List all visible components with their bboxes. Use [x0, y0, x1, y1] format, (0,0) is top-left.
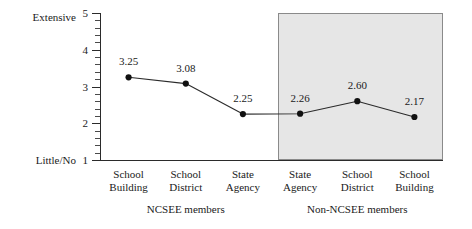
y-axis-minor-tick: [95, 20, 100, 21]
y-axis-minor-tick: [95, 35, 100, 36]
y-axis-tick-label: 2: [74, 118, 88, 129]
data-point-marker: [183, 81, 189, 87]
y-axis-minor-tick: [95, 79, 100, 80]
y-axis-minor-tick: [95, 42, 100, 43]
y-axis-major-tick: [92, 50, 100, 51]
data-point-value-label: 2.17: [405, 96, 424, 107]
y-axis-major-tick: [92, 13, 100, 14]
data-point-value-label: 2.60: [348, 80, 367, 91]
y-axis-tick-label: 4: [74, 45, 88, 56]
y-axis-major-tick: [92, 123, 100, 124]
y-axis-anchor-low-label: Little/No: [18, 155, 76, 166]
y-axis-tick-label: 5: [74, 8, 88, 19]
y-axis-tick-label: 1: [74, 155, 88, 166]
data-point-value-label: 3.25: [119, 56, 138, 67]
x-axis-group-label: Non-NCSEE members: [267, 203, 447, 215]
x-axis-group-label: NCSEE members: [96, 203, 276, 215]
data-point-value-label: 2.25: [233, 93, 252, 104]
y-axis-line: [100, 13, 101, 161]
data-point-value-label: 3.08: [176, 63, 195, 74]
y-axis-major-tick: [92, 87, 100, 88]
data-point-value-label: 2.26: [290, 93, 309, 104]
data-point-marker: [126, 74, 132, 80]
y-axis-minor-tick: [95, 28, 100, 29]
y-axis-minor-tick: [95, 64, 100, 65]
y-axis-minor-tick: [95, 153, 100, 154]
y-axis-minor-tick: [95, 145, 100, 146]
y-axis-minor-tick: [95, 138, 100, 139]
data-point-marker: [240, 111, 246, 117]
y-axis-minor-tick: [95, 101, 100, 102]
y-axis-minor-tick: [95, 57, 100, 58]
y-axis-tick-label: 3: [74, 82, 88, 93]
y-axis-minor-tick: [95, 116, 100, 117]
y-axis-minor-tick: [95, 131, 100, 132]
chart-figure: Extensive Little/No 12345 3.253.082.252.…: [0, 0, 472, 229]
x-axis-line: [100, 160, 443, 161]
y-axis-anchor-high-label: Extensive: [18, 12, 76, 23]
y-axis-major-tick: [92, 160, 100, 161]
y-axis-minor-tick: [95, 109, 100, 110]
x-axis-category-label: School Building: [378, 168, 450, 194]
y-axis-minor-tick: [95, 72, 100, 73]
y-axis-minor-tick: [95, 94, 100, 95]
